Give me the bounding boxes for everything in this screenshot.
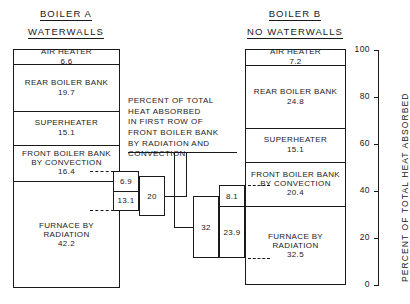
caption-line-3: IN FIRST ROW OF [128, 117, 219, 128]
segment-label-line2: BY CONVECTION [260, 180, 331, 189]
boiler-a-segment-rear-boiler-bank: REAR BOILER BANK 19.7 [14, 65, 119, 112]
boiler-a-title: BOILER A [40, 8, 92, 21]
callout-lower: 23.9 [220, 207, 244, 257]
boiler-b-segment-rear-boiler-bank: REAR BOILER BANK 24.8 [246, 66, 345, 129]
segment-label: SUPERHEATER [264, 136, 327, 145]
boiler-b-callout-total: 32 [193, 196, 219, 258]
segment-value: 32.5 [287, 251, 304, 260]
y-axis-tick-20 [374, 238, 379, 239]
boiler-b-subtitle: NO WATERWALLS [247, 26, 343, 39]
segment-value: 20.4 [287, 189, 304, 198]
boiler-a-subtitle-block: WATERWALLS [12, 26, 120, 39]
boiler-b-segment-furnace-by-radiation: FURNACE BY RADIATION 32.5 [246, 207, 345, 286]
segment-value: 15.1 [287, 146, 304, 155]
boiler-b-leader-bottom [248, 258, 270, 259]
y-axis-tick-40 [374, 191, 379, 192]
segment-label: SUPERHEATER [35, 119, 98, 128]
callout-lower: 13.1 [114, 192, 138, 211]
segment-label: AIR HEATER [270, 48, 321, 57]
boiler-a-title-block: BOILER A [12, 8, 120, 21]
y-axis-label-80: 80 [344, 91, 370, 101]
y-axis-line [378, 50, 379, 285]
boiler-a-callout-split: 6.9 13.1 [113, 171, 139, 211]
boiler-a-leader-top [90, 171, 114, 172]
y-axis-tick-80 [374, 97, 379, 98]
segment-label-line2: BY CONVECTION [31, 159, 102, 168]
boiler-a-subtitle: WATERWALLS [28, 26, 104, 39]
boiler-a-leader-bottom [90, 210, 114, 211]
segment-value: 24.8 [287, 98, 304, 107]
boiler-a-segment-air-heater: AIR HEATER 6.6 [14, 50, 119, 65]
boiler-b-callout-split: 8.1 23.9 [219, 185, 245, 258]
boiler-b-title: BOILER B [269, 8, 322, 21]
segment-label: REAR BOILER BANK [25, 79, 108, 88]
y-axis-tick-0 [374, 285, 379, 286]
segment-label-line2: RADIATION [43, 231, 89, 240]
y-axis-tick-100 [374, 50, 379, 51]
boiler-b-stack: AIR HEATER 7.2 REAR BOILER BANK 24.8 SUP… [245, 49, 346, 285]
y-axis-label-40: 40 [344, 185, 370, 195]
caption-line-4: FRONT BOILER BANK [128, 128, 219, 139]
y-axis-label-60: 60 [344, 138, 370, 148]
caption-line-1: PERCENT OF TOTAL [128, 96, 219, 107]
boiler-a-callout-total: 20 [139, 176, 165, 216]
segment-value: 42.2 [58, 240, 75, 249]
y-axis-title: PERCENT OF TOTAL HEAT ABSORBED [400, 92, 410, 282]
y-axis-label-20: 20 [344, 232, 370, 242]
segment-label: AIR HEATER [41, 48, 92, 57]
connector-b-horizontal [174, 227, 194, 228]
boiler-b-segment-superheater: SUPERHEATER 15.1 [246, 129, 345, 163]
center-caption: PERCENT OF TOTAL HEAT ABSORBED IN FIRST … [128, 96, 219, 160]
connector-a-horizontal [165, 196, 187, 197]
boiler-a-stack: AIR HEATER 6.6 REAR BOILER BANK 19.7 SUP… [13, 49, 120, 288]
segment-label: REAR BOILER BANK [254, 88, 337, 97]
segment-value: 16.4 [58, 168, 75, 177]
callout-upper: 8.1 [220, 186, 244, 207]
boiler-a-segment-front-boiler-bank: FRONT BOILER BANK BY CONVECTION 16.4 [14, 146, 119, 182]
boiler-b-leader-top [248, 185, 270, 186]
connector-b-vertical [174, 152, 175, 228]
boiler-a-segment-superheater: SUPERHEATER 15.1 [14, 112, 119, 146]
caption-line-5: BY RADIATION AND [128, 139, 219, 150]
callout-upper: 6.9 [114, 172, 138, 192]
boiler-b-title-block: BOILER B [244, 8, 346, 21]
boiler-b-subtitle-block: NO WATERWALLS [244, 26, 346, 39]
boiler-b-segment-air-heater: AIR HEATER 7.2 [246, 50, 345, 66]
y-axis-label-0: 0 [344, 279, 370, 289]
boiler-a-segment-furnace-by-radiation: FURNACE BY RADIATION 42.2 [14, 182, 119, 289]
segment-value: 15.1 [58, 129, 75, 138]
y-axis-label-100: 100 [344, 44, 370, 54]
segment-value: 19.7 [58, 89, 75, 98]
caption-line-2: HEAT ABSORBED [128, 107, 219, 118]
caption-underline [128, 152, 237, 153]
y-axis-tick-60 [374, 144, 379, 145]
segment-label-line2: RADIATION [272, 242, 318, 251]
